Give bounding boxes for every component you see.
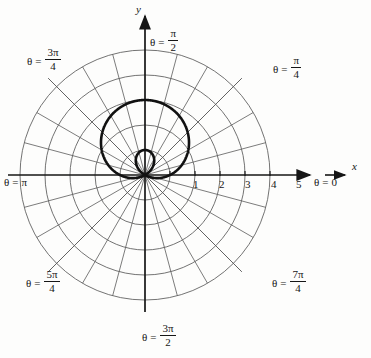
angle-label-3pi-over-4: θ = 3π4: [27, 46, 62, 72]
theta-symbol: θ =: [142, 331, 159, 343]
theta-symbol: θ =: [272, 277, 289, 289]
angle-label-5pi-over-4: θ = 5π4: [26, 268, 61, 294]
x-tick-label-2: 2: [219, 178, 225, 190]
fraction-numerator: 7π: [290, 268, 305, 282]
grid-ray-135deg: [48, 78, 145, 175]
fraction-denominator: 4: [44, 282, 59, 295]
x-tick-label-1: 1: [193, 178, 199, 190]
theta-symbol: θ =: [273, 63, 290, 75]
grid-ray-165deg: [24, 143, 145, 175]
fraction-numerator: π: [291, 54, 301, 68]
grid-ray-30deg: [145, 113, 253, 176]
grid-ray-240deg: [83, 175, 146, 283]
x-tick-label-3: 3: [245, 178, 251, 190]
grid-ray-285deg: [145, 175, 177, 296]
angle-fraction: π2: [168, 27, 178, 53]
theta-symbol: θ =: [26, 277, 43, 289]
fraction-denominator: 2: [168, 41, 178, 54]
grid-ray-255deg: [113, 175, 145, 296]
theta-symbol: θ =: [27, 55, 44, 67]
fraction-numerator: π: [168, 27, 178, 41]
theta-symbol: θ =: [150, 36, 167, 48]
grid-ray-195deg: [24, 175, 145, 207]
grid-ray-225deg: [48, 175, 145, 272]
grid-ray-105deg: [113, 54, 145, 175]
angle-label-3pi-over-2: θ = 3π2: [142, 322, 177, 348]
x-tick-label-5: 5: [296, 178, 302, 190]
angle-label-7pi-over-4: θ = 7π4: [272, 268, 307, 294]
x-axis-label: x: [352, 160, 357, 172]
x-tick-label-4: 4: [271, 178, 277, 190]
angle-fraction: 3π2: [160, 322, 175, 348]
angle-label-pi-over-2: θ = π2: [150, 27, 179, 53]
polar-plot-figure: 1 2 3 4 5 y x θ = π2 θ = π4 θ = 0 θ = 7π…: [0, 0, 371, 358]
fraction-denominator: 2: [160, 336, 175, 349]
grid-ray-150deg: [37, 113, 145, 176]
fraction-denominator: 4: [290, 282, 305, 295]
fraction-numerator: 3π: [45, 46, 60, 60]
theta-symbol: θ =: [314, 176, 331, 188]
grid-ray-45deg: [145, 78, 242, 175]
grid-ray-300deg: [145, 175, 208, 283]
grid-ray-210deg: [37, 175, 145, 238]
fraction-numerator: 5π: [44, 268, 59, 282]
grid-ray-330deg: [145, 175, 253, 238]
grid-ray-15deg: [145, 143, 266, 175]
angle-value: π: [21, 176, 27, 188]
fraction-numerator: 3π: [160, 322, 175, 336]
theta-symbol: θ =: [4, 176, 21, 188]
grid-ray-75deg: [145, 54, 177, 175]
angle-fraction: π4: [291, 54, 301, 80]
angle-fraction: 3π4: [45, 46, 60, 72]
angle-label-zero: θ = 0: [314, 177, 337, 189]
angle-fraction: 5π4: [44, 268, 59, 294]
angle-value: 0: [331, 176, 337, 188]
angle-fraction: 7π4: [290, 268, 305, 294]
fraction-denominator: 4: [45, 60, 60, 73]
angle-label-pi-over-4: θ = π4: [273, 54, 302, 80]
y-axis-label: y: [136, 3, 141, 15]
fraction-denominator: 4: [291, 68, 301, 81]
angle-label-pi: θ = π: [4, 177, 27, 189]
